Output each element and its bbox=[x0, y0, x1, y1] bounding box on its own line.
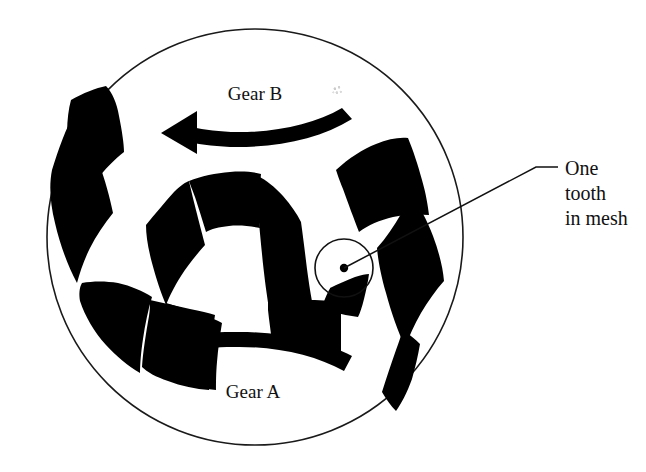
gear-b-rotation-arrow bbox=[161, 108, 352, 154]
ring-tooth-lower-left bbox=[79, 282, 152, 374]
callout-label-line-3: in mesh bbox=[565, 207, 628, 229]
gear-b-arrow-head bbox=[161, 111, 197, 154]
ink-smudge-artifact bbox=[331, 84, 344, 96]
pinion-tooth-top bbox=[189, 172, 261, 232]
gear-a-label: Gear A bbox=[226, 381, 281, 402]
gear-b-label: Gear B bbox=[228, 83, 282, 104]
callout-label-line-1: One bbox=[565, 157, 598, 179]
figure-canvas: Gear B Gear A One tooth in mesh bbox=[0, 0, 646, 472]
pinion-tooth-centre bbox=[257, 176, 313, 315]
callout-label-line-2: tooth bbox=[565, 182, 606, 204]
gear-b-arrow-shaft bbox=[184, 108, 352, 147]
gear-mesh-diagram: Gear B Gear A One tooth in mesh bbox=[0, 0, 646, 472]
